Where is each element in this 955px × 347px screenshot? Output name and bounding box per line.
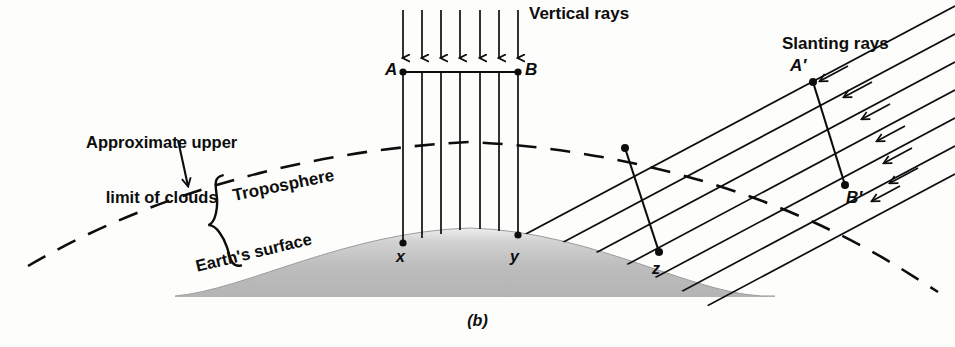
- label-slanting-rays: Slanting rays: [782, 34, 889, 53]
- point-label-A-prime: A′: [790, 56, 806, 76]
- slanting-ray-arrowheads: [820, 66, 918, 201]
- label-vertical-rays: Vertical rays: [529, 4, 629, 23]
- point-label-B: B: [525, 60, 537, 80]
- segment-z-drop: [625, 148, 659, 252]
- label-cloud-limit-line2: limit of clouds: [86, 188, 237, 206]
- vertical-ray-group: [403, 10, 518, 58]
- slant-arrow-6: [890, 168, 918, 183]
- point-z-dot: [655, 248, 663, 256]
- point-A-dot: [399, 68, 406, 75]
- slant-arrow-4: [877, 126, 905, 141]
- vertical-ray-shafts: [403, 72, 518, 243]
- slant-wavefront-top-dot: [621, 144, 629, 152]
- slant-arrow-2: [844, 82, 872, 97]
- point-x-dot: [399, 239, 406, 246]
- slanting-ray-4: [412, 90, 955, 347]
- point-label-z: z: [652, 260, 660, 278]
- point-label-y: y: [510, 248, 519, 266]
- point-label-B-prime: B′: [846, 188, 862, 208]
- segment-ApBp: [813, 82, 845, 185]
- figure-caption: (b): [0, 312, 955, 330]
- insolation-diagram: Vertical rays Slanting rays Approximate …: [0, 0, 955, 347]
- slanting-ray-3: [430, 62, 955, 341]
- point-y-dot: [514, 231, 521, 238]
- slant-arrow-3: [862, 104, 890, 119]
- slant-arrow-1: [820, 66, 848, 81]
- point-Aprime-dot: [809, 78, 817, 86]
- point-B-dot: [514, 68, 521, 75]
- point-label-A: A: [385, 60, 397, 80]
- label-cloud-limit-line1: Approximate upper: [86, 133, 237, 151]
- point-label-x: x: [396, 248, 405, 266]
- label-cloud-limit: Approximate upper limit of clouds: [86, 96, 237, 244]
- slant-arrow-5: [884, 148, 912, 163]
